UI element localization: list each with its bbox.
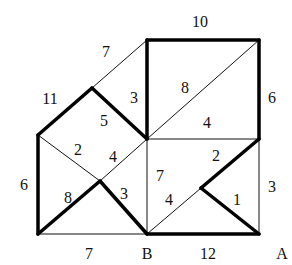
weighted-graph-diagram: 10637115842468372413712BA xyxy=(0,0,292,265)
node-label-b: B xyxy=(142,245,153,262)
edge-weight-label: 3 xyxy=(130,89,138,106)
node-label-a: A xyxy=(276,245,288,262)
edge-B-inner_right xyxy=(147,188,201,234)
edge-weight-label: 11 xyxy=(42,90,57,107)
edge-weight-label: 2 xyxy=(212,147,220,164)
edge-weight-label: 3 xyxy=(268,178,276,195)
edge-weight-label: 4 xyxy=(109,148,117,165)
edge-weight-label: 5 xyxy=(100,112,108,129)
edge-weight-label: 8 xyxy=(181,79,189,96)
edge-weight-label: 2 xyxy=(74,141,82,158)
edge-x_center-center xyxy=(100,139,147,181)
edge-inner_right-A-selected xyxy=(201,188,259,234)
edge-weight-label: 4 xyxy=(165,191,173,208)
edge-weight-label: 4 xyxy=(203,114,211,131)
edge-weight-label: 10 xyxy=(192,13,208,30)
edge-weight-label: 3 xyxy=(120,185,128,202)
edge-weight-label: 7 xyxy=(85,245,93,262)
edge-weight-label: 8 xyxy=(64,189,72,206)
edge-weight-label: 7 xyxy=(102,43,110,60)
edge-right_mid-inner_right-selected xyxy=(201,139,259,188)
edge-weight-label: 1 xyxy=(233,191,241,208)
edge-weight-label: 7 xyxy=(156,167,164,184)
edge-weight-label: 12 xyxy=(200,245,216,262)
edge-weight-label: 6 xyxy=(20,176,28,193)
edge-peak-TL_sq xyxy=(92,40,147,88)
edge-left-x_center xyxy=(38,135,100,181)
edge-weight-label: 6 xyxy=(268,89,276,106)
